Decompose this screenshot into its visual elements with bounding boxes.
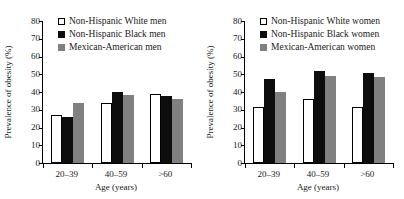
bar <box>275 92 286 163</box>
x-tick-mark <box>191 163 192 168</box>
y-tick-label: 60 <box>222 52 242 61</box>
y-tick-mark <box>39 74 43 75</box>
x-tick-mark <box>344 163 345 168</box>
y-axis-title-women: Prevalence of obesity (%) <box>204 21 216 163</box>
y-tick-mark <box>241 128 245 129</box>
legend-swatch-black-icon <box>58 31 65 38</box>
bar <box>101 103 112 163</box>
bar <box>363 73 374 163</box>
bar <box>112 92 123 163</box>
bar <box>123 95 134 163</box>
y-tick-mark <box>241 145 245 146</box>
obesity-prevalence-figure: Prevalence of obesity (%) 01020304050607… <box>0 0 404 199</box>
legend-swatch-gray-icon <box>58 44 65 51</box>
y-axis-title-men: Prevalence of obesity (%) <box>2 21 14 163</box>
legend-item: Non-Hispanic Black men <box>58 28 166 41</box>
y-tick-label: 40 <box>20 88 40 97</box>
x-tick-label: 40–59 <box>307 169 330 179</box>
bar <box>253 107 264 163</box>
y-tick-label: 10 <box>20 141 40 150</box>
y-tick-label: 70 <box>222 34 242 43</box>
y-tick-mark <box>241 74 245 75</box>
chart-panel-women: Prevalence of obesity (%) 01020304050607… <box>202 0 404 199</box>
y-tick-mark <box>241 110 245 111</box>
bar <box>73 103 84 163</box>
legend-item: Mexican-American men <box>58 41 166 54</box>
x-tick-mark <box>393 163 394 168</box>
x-tick-label: 40–59 <box>105 169 128 179</box>
legend-women: Non-Hispanic White womenNon-Hispanic Bla… <box>260 15 380 54</box>
legend-swatch-white-icon <box>58 18 65 25</box>
y-tick-mark <box>39 110 43 111</box>
y-tick-label: 30 <box>222 105 242 114</box>
x-tick-mark <box>43 163 44 168</box>
legend-item: Non-Hispanic White women <box>260 15 380 28</box>
bar <box>51 115 62 163</box>
y-tick-label: 40 <box>222 88 242 97</box>
y-tick-label: 20 <box>222 123 242 132</box>
y-tick-mark <box>39 128 43 129</box>
legend-label: Non-Hispanic Black women <box>271 29 379 40</box>
x-tick-label: 20–39 <box>55 169 78 179</box>
bar <box>150 94 161 163</box>
x-tick-mark <box>92 163 93 168</box>
y-axis-ticks-men: 01020304050607080 <box>14 0 40 199</box>
legend-label: Non-Hispanic Black men <box>69 29 166 40</box>
y-tick-label: 0 <box>20 159 40 168</box>
y-tick-label: 70 <box>20 34 40 43</box>
bar <box>314 71 325 163</box>
legend-swatch-gray-icon <box>260 44 267 51</box>
x-axis-title-women: Age (years) <box>244 182 392 192</box>
legend-label: Mexican-American men <box>69 42 162 53</box>
y-tick-label: 60 <box>20 52 40 61</box>
bar <box>62 117 73 163</box>
bar <box>264 79 275 163</box>
x-tick-label: >60 <box>158 169 172 179</box>
y-tick-mark <box>241 21 245 22</box>
y-tick-label: 80 <box>222 17 242 26</box>
y-tick-mark <box>39 39 43 40</box>
y-tick-label: 50 <box>20 70 40 79</box>
y-tick-mark <box>39 57 43 58</box>
y-tick-label: 80 <box>20 17 40 26</box>
y-tick-mark <box>39 92 43 93</box>
y-tick-label: 30 <box>20 105 40 114</box>
bar <box>172 99 183 163</box>
x-tick-label: 20–39 <box>257 169 280 179</box>
legend-item: Non-Hispanic Black women <box>260 28 380 41</box>
y-tick-label: 10 <box>222 141 242 150</box>
legend-label: Non-Hispanic White men <box>69 16 166 27</box>
x-axis-title-men: Age (years) <box>42 182 190 192</box>
legend-item: Mexican-American women <box>260 41 380 54</box>
y-tick-mark <box>241 39 245 40</box>
bar <box>161 96 172 163</box>
legend-swatch-black-icon <box>260 31 267 38</box>
bar <box>374 77 385 163</box>
y-tick-mark <box>241 92 245 93</box>
legend-men: Non-Hispanic White menNon-Hispanic Black… <box>58 15 166 54</box>
x-tick-label: >60 <box>360 169 374 179</box>
x-tick-mark <box>142 163 143 168</box>
y-tick-label: 50 <box>222 70 242 79</box>
x-tick-mark <box>245 163 246 168</box>
legend-item: Non-Hispanic White men <box>58 15 166 28</box>
legend-swatch-white-icon <box>260 18 267 25</box>
y-tick-label: 0 <box>222 159 242 168</box>
y-axis-ticks-women: 01020304050607080 <box>216 0 242 199</box>
y-tick-label: 20 <box>20 123 40 132</box>
bar <box>303 99 314 163</box>
legend-label: Mexican-American women <box>271 42 375 53</box>
y-tick-mark <box>39 21 43 22</box>
bar <box>352 107 363 163</box>
x-tick-mark <box>294 163 295 168</box>
y-tick-mark <box>39 145 43 146</box>
y-tick-mark <box>241 57 245 58</box>
legend-label: Non-Hispanic White women <box>271 16 380 27</box>
chart-panel-men: Prevalence of obesity (%) 01020304050607… <box>0 0 202 199</box>
bar <box>325 76 336 163</box>
